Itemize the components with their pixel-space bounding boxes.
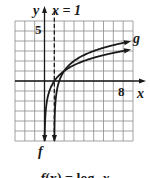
function-caption: f(x) = log2 x xyxy=(0,171,150,178)
y-tick-label-5: 5 xyxy=(35,23,42,36)
y-axis-label: y xyxy=(33,4,39,18)
asymptote-label: x = 1 xyxy=(52,4,81,18)
graph-plot xyxy=(0,0,150,178)
x-axis-label: x xyxy=(137,87,144,101)
curve-g-label: g xyxy=(133,32,140,46)
x-tick-label-8: 8 xyxy=(118,85,125,98)
caption-var: x xyxy=(99,171,110,178)
caption-lhs: (x) = log xyxy=(45,171,94,178)
curve-f xyxy=(45,50,128,141)
curve-f-label: f xyxy=(38,145,43,159)
